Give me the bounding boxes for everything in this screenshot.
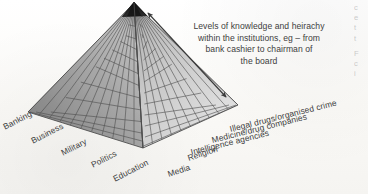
- margin-line-1: c: [354, 3, 368, 13]
- margin-line-7: i: [354, 69, 368, 79]
- margin-line-2: e: [354, 13, 368, 23]
- margin-line-4: t: [354, 34, 368, 44]
- diagram-page: Levels of knowledge and heirachy within …: [0, 0, 368, 194]
- page-margin-cutoff-text: c e t t F c i: [354, 3, 368, 79]
- caption-line-4: the board: [180, 56, 338, 68]
- margin-line-3: t: [354, 23, 368, 33]
- pyramid-left-face: [28, 3, 143, 148]
- caption-line-2: within the institutions, eg – from: [180, 33, 338, 45]
- caption-line-1: Levels of knowledge and heirachy: [180, 21, 338, 33]
- margin-line-6: c: [354, 59, 368, 69]
- caption-line-3: bank cashier to chairman of: [180, 44, 338, 56]
- caption-block: Levels of knowledge and heirachy within …: [180, 21, 338, 68]
- margin-line-5: F: [354, 49, 368, 59]
